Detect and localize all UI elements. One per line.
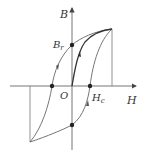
hysteresis-diagram: B H O Br Hc [0,0,144,162]
remanence-label: Br [52,39,64,52]
origin-label: O [60,90,68,101]
coercivity-label: Hc [91,92,105,105]
initial-magnetization-curve [72,29,112,86]
coercivity-point [88,84,92,88]
x-axis-label: H [126,94,137,107]
y-axis-label: B [59,8,68,21]
remanence-point [70,43,74,47]
negative-coercivity-point [50,84,54,88]
negative-remanence-point [70,123,74,127]
